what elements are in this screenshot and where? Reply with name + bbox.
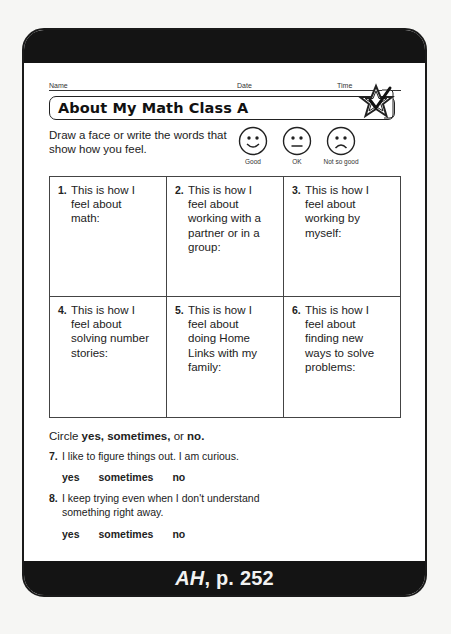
grid-cell-3[interactable]: 3.This is how I feel about working by my… xyxy=(284,177,400,297)
question-8: 8. I keep trying even when I don't under… xyxy=(49,492,260,519)
smiley-face-icon xyxy=(238,126,268,156)
face-ok: OK xyxy=(281,126,313,165)
face-label-not-so-good: Not so good xyxy=(315,158,367,165)
option-yes[interactable]: yes xyxy=(62,471,80,483)
worksheet-page: Name Date Time About My Math Class A Dra… xyxy=(0,0,451,634)
circle-no: no. xyxy=(187,430,204,442)
circle-or: or xyxy=(170,430,187,442)
answer-options-7: yes sometimes no xyxy=(62,471,185,483)
worksheet-card: Name Date Time About My Math Class A Dra… xyxy=(22,28,427,597)
name-date-time-row: Name Date Time xyxy=(49,77,401,91)
cell-prompt: This is how I feel about finding new way… xyxy=(305,303,374,417)
cell-number: 4. xyxy=(58,303,71,417)
question-text: I keep trying even when I don't understa… xyxy=(62,492,260,519)
answer-options-8: yes sometimes no xyxy=(62,528,185,540)
grid-cell-2[interactable]: 2.This is how I feel about working with … xyxy=(167,177,284,297)
cell-number: 6. xyxy=(292,303,305,417)
neutral-face-icon xyxy=(282,126,312,156)
option-no[interactable]: no xyxy=(172,471,185,483)
circle-sometimes: sometimes, xyxy=(104,430,170,442)
question-7: 7. I like to figure things out. I am cur… xyxy=(49,450,239,464)
option-yes[interactable]: yes xyxy=(62,528,80,540)
page-title: About My Math Class A xyxy=(58,100,248,116)
option-no[interactable]: no xyxy=(172,528,185,540)
question-text: I like to figure things out. I am curiou… xyxy=(62,450,239,464)
question-number: 7. xyxy=(49,450,62,464)
face-not-so-good: Not so good xyxy=(325,126,357,165)
circle-instructions: Circle yes, sometimes, or no. xyxy=(49,430,204,442)
cell-prompt: This is how I feel about doing Home Link… xyxy=(188,303,257,417)
cell-prompt: This is how I feel about math: xyxy=(71,183,135,296)
frowning-face-icon xyxy=(326,126,356,156)
question-number: 8. xyxy=(49,492,62,519)
grid-cell-6[interactable]: 6.This is how I feel about finding new w… xyxy=(284,297,400,417)
top-band xyxy=(24,30,425,63)
cell-prompt: This is how I feel about working by myse… xyxy=(305,183,369,296)
grid-cell-4[interactable]: 4.This is how I feel about solving numbe… xyxy=(50,297,167,417)
page-ref-book: AH xyxy=(175,567,204,589)
face-good: Good xyxy=(237,126,269,165)
cell-prompt: This is how I feel about solving number … xyxy=(71,303,149,417)
cell-number: 5. xyxy=(175,303,188,417)
cell-number: 2. xyxy=(175,183,188,296)
option-sometimes[interactable]: sometimes xyxy=(99,471,154,483)
circle-prefix: Circle xyxy=(49,430,82,442)
star-check-icon xyxy=(356,82,396,122)
grid-cell-5[interactable]: 5.This is how I feel about doing Home Li… xyxy=(167,297,284,417)
title-box: About My Math Class A xyxy=(49,96,395,120)
feelings-grid: 1.This is how I feel about math: 2.This … xyxy=(49,176,401,418)
time-label: Time xyxy=(337,82,352,89)
instructions-text: Draw a face or write the words that show… xyxy=(49,128,239,156)
cell-number: 1. xyxy=(58,183,71,296)
cell-number: 3. xyxy=(292,183,305,296)
page-ref-page: , p. 252 xyxy=(204,567,273,589)
name-label: Name xyxy=(49,82,68,89)
cell-prompt: This is how I feel about working with a … xyxy=(188,183,261,296)
page-reference: AH, p. 252 xyxy=(175,567,274,590)
option-sometimes[interactable]: sometimes xyxy=(99,528,154,540)
grid-cell-1[interactable]: 1.This is how I feel about math: xyxy=(50,177,167,297)
bottom-band: AH, p. 252 xyxy=(24,561,425,595)
date-label: Date xyxy=(237,82,252,89)
circle-yes: yes, xyxy=(82,430,104,442)
